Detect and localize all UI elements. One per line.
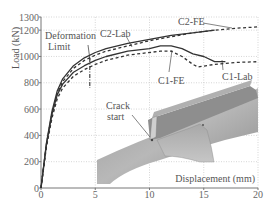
y-tick-label: 1000	[19, 51, 39, 62]
deformation-limit-label-line1: Deformation	[45, 30, 96, 41]
c1-fe-label: C1-FE	[158, 75, 185, 86]
x-tick-label: 15	[199, 189, 209, 200]
y-tick-label: 800	[24, 77, 39, 88]
x-tick-label: 0	[39, 189, 44, 200]
y-axis-label: Load (kN)	[10, 27, 22, 69]
y-tick-label: 200	[24, 156, 39, 167]
inset-fe-model-image	[97, 80, 258, 184]
c1-fe-leader	[169, 50, 172, 72]
y-tick-label: 1200	[19, 25, 39, 36]
crack-start-leader	[132, 115, 150, 137]
c2-fe-label: C2-FE	[178, 16, 205, 27]
deformation-limit-label-line2: Limit	[48, 41, 70, 52]
x-axis-label: Displacement (mm)	[175, 173, 255, 185]
x-tick-label: 20	[253, 189, 263, 200]
y-tick-label: 1300	[19, 12, 39, 23]
c1-lab-label: C1-Lab	[222, 71, 253, 82]
y-tick-label: 400	[24, 130, 39, 141]
crack-start-label-line1: Crack	[106, 100, 130, 111]
c2-fe-leader	[203, 23, 232, 28]
x-tick-label: 10	[145, 189, 155, 200]
y-tick-label: 600	[24, 104, 39, 115]
crack-start-label-line2: start	[107, 111, 124, 122]
load-displacement-chart: 020040060080010001200130005101520 Load (…	[0, 0, 268, 209]
c2-lab-label: C2-Lab	[100, 28, 131, 39]
x-tick-label: 5	[93, 189, 98, 200]
